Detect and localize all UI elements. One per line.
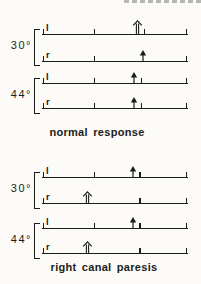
tick-mark xyxy=(186,198,187,204)
response-timeline-l: l xyxy=(42,67,188,84)
response-peak-arrow xyxy=(129,97,139,108)
ear-label-r: r xyxy=(46,49,50,60)
tick-mark xyxy=(139,248,140,254)
tick-mark xyxy=(43,223,44,229)
ear-label-r: r xyxy=(46,96,50,107)
caloric-test-figure: 30° 44° 30° 44° normal response right ca… xyxy=(0,0,201,284)
ear-label-l: l xyxy=(46,71,49,82)
tick-mark xyxy=(141,103,142,109)
response-peak-arrow-open xyxy=(82,241,93,253)
response-peak-arrow-open xyxy=(132,20,143,34)
response-timeline-l: l xyxy=(42,18,188,35)
tick-mark xyxy=(43,103,44,109)
tick-mark xyxy=(94,29,95,35)
temp-label-44-paresis: 44° xyxy=(2,233,32,245)
ear-label-r: r xyxy=(46,241,50,252)
tick-mark xyxy=(144,29,145,35)
response-peak-arrow xyxy=(129,72,139,83)
ear-label-l: l xyxy=(46,165,49,176)
tick-mark xyxy=(94,103,95,109)
response-timeline-r: r xyxy=(42,45,188,62)
tick-mark xyxy=(186,248,187,254)
tick-mark xyxy=(141,78,142,84)
ear-label-l: l xyxy=(46,216,49,227)
tick-mark xyxy=(43,29,44,35)
tick-mark xyxy=(94,172,95,178)
temperature-bracket xyxy=(34,29,40,66)
tick-mark xyxy=(186,29,187,35)
temperature-bracket xyxy=(34,223,40,259)
response-timeline-r: r xyxy=(42,237,188,254)
temp-label-44-normal: 44° xyxy=(2,88,32,100)
response-timeline-l: l xyxy=(42,212,188,229)
tick-mark xyxy=(139,198,140,204)
tick-mark xyxy=(43,172,44,178)
response-peak-arrow xyxy=(138,50,148,61)
caption-right-canal-paresis: right canal paresis xyxy=(40,261,168,273)
temperature-bracket xyxy=(34,78,40,114)
ear-label-l: l xyxy=(46,22,49,33)
response-timeline-r: r xyxy=(42,92,188,109)
cropped-header-text-fragment xyxy=(124,0,201,3)
response-peak-arrow xyxy=(128,166,138,177)
tick-mark xyxy=(186,56,187,62)
tick-mark xyxy=(139,223,140,229)
tick-mark xyxy=(94,78,95,84)
response-peak-arrow-open xyxy=(82,191,93,203)
tick-mark xyxy=(43,56,44,62)
tick-mark xyxy=(186,103,187,109)
tick-mark xyxy=(186,223,187,229)
tick-mark xyxy=(186,78,187,84)
tick-mark xyxy=(186,172,187,178)
ear-label-r: r xyxy=(46,191,50,202)
tick-mark xyxy=(43,78,44,84)
response-timeline-r: r xyxy=(42,187,188,204)
caption-normal-response: normal response xyxy=(37,126,157,138)
tick-mark xyxy=(94,223,95,229)
temp-label-30-paresis: 30° xyxy=(2,182,32,194)
tick-mark xyxy=(43,248,44,254)
response-peak-arrow xyxy=(128,217,138,228)
response-timeline-l: l xyxy=(42,161,188,178)
temperature-bracket xyxy=(34,172,40,209)
tick-mark xyxy=(43,198,44,204)
temp-label-30-normal: 30° xyxy=(2,39,32,51)
tick-mark xyxy=(139,172,140,178)
tick-mark xyxy=(94,56,95,62)
